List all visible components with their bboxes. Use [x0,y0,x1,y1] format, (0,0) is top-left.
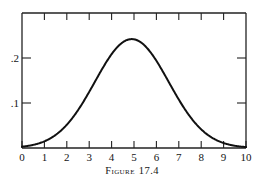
figure-caption-number: 17.4 [139,165,159,176]
bell-curve-plot: 0 1 2 3 4 5 6 7 8 9 10 .1 .2 [0,0,264,184]
x-label-10: 10 [241,151,253,163]
x-label-6: 6 [154,151,160,163]
y-label-0.2: .2 [11,52,19,64]
figure-caption-label: Figure [105,165,135,176]
x-label-2: 2 [64,151,70,163]
x-label-9: 9 [221,151,227,163]
x-label-8: 8 [198,151,204,163]
figure-caption: Figure17.4 [0,165,264,176]
x-label-0: 0 [19,151,25,163]
x-label-5: 5 [131,151,137,163]
y-label-0.1: .1 [11,97,19,109]
x-label-3: 3 [86,151,92,163]
figure-container: 0 1 2 3 4 5 6 7 8 9 10 .1 .2 Figure17.4 [0,0,264,184]
x-label-7: 7 [176,151,182,163]
x-label-1: 1 [42,151,48,163]
x-label-4: 4 [109,151,115,163]
